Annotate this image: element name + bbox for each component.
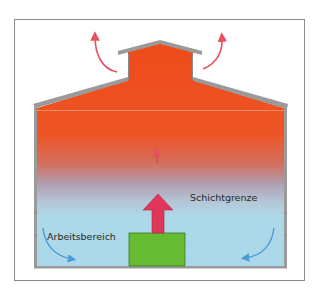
left-wall: [34, 106, 37, 268]
right-wall: [284, 106, 287, 268]
stratification-diagram: Arbeitsbereich Schichtgrenze: [0, 0, 319, 291]
label-work-zone: Arbeitsbereich: [47, 231, 116, 242]
label-stratification-boundary: Schichtgrenze: [190, 192, 257, 203]
heat-source: [129, 233, 185, 266]
